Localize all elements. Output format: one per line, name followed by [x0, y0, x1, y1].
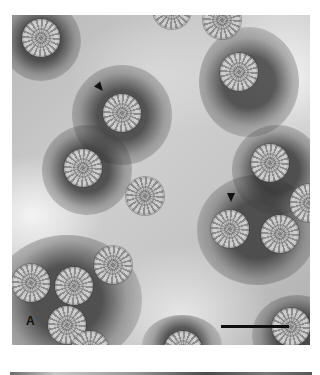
virus-particle — [55, 267, 93, 305]
micrograph-panel: A — [12, 15, 310, 345]
virus-particle — [153, 15, 191, 29]
virus-particle — [12, 264, 50, 302]
virus-particle — [211, 210, 249, 248]
panel-label: A — [26, 314, 35, 328]
virus-particle — [261, 215, 299, 253]
virus-particle — [203, 15, 241, 39]
virus-particle — [64, 149, 102, 187]
virus-particle — [94, 246, 132, 284]
virus-particle — [251, 144, 289, 182]
virus-particle — [103, 94, 141, 132]
arrowhead-marker — [94, 81, 106, 93]
scale-bar — [221, 325, 289, 328]
virus-particle — [220, 53, 258, 91]
virus-particle — [290, 184, 310, 222]
virus-particle — [164, 331, 202, 345]
virus-particle — [126, 177, 164, 215]
virus-particle — [22, 19, 60, 57]
arrowhead-marker — [227, 193, 235, 202]
